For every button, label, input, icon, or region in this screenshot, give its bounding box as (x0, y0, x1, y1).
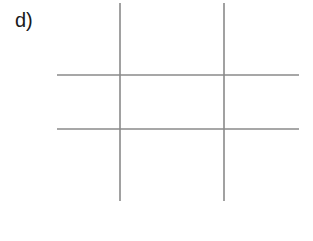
tic-tac-toe-grid (0, 0, 313, 241)
